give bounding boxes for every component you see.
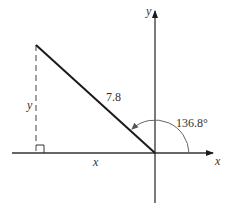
angle-label: 136.8° [176, 116, 208, 130]
diagram-svg: y x 7.8 136.8° y x [0, 0, 229, 212]
vertical-leg-label: y [26, 98, 33, 112]
hypotenuse-label: 7.8 [106, 90, 121, 104]
hypotenuse-line [36, 45, 155, 153]
diagram-canvas: y x 7.8 136.8° y x [0, 0, 229, 212]
horizontal-leg-label: x [92, 155, 99, 169]
x-axis-label: x [214, 154, 221, 168]
right-angle-marker [36, 145, 44, 153]
y-axis-label: y [145, 4, 152, 18]
